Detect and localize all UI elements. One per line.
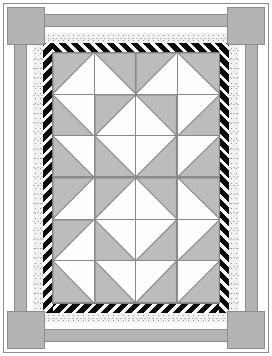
quilt-patch-r4-c1 [53,178,95,220]
quilt-patch-r3-c4 [178,136,220,178]
seam-line-grey-right-inner [245,45,246,311]
quilt-patch-r4-c2 [95,178,137,220]
border-band-stripe-top [44,43,228,53]
inner-pieced-field [53,53,219,303]
corner-square-top-right [227,7,265,45]
quilt-patch-r6-c3 [136,261,178,303]
quilt-patch-r6-c4 [178,261,220,303]
border-band-white-inner-bottom [45,323,227,329]
quilt-patch-r5-c4 [178,220,220,262]
quilt-patch-r2-c2 [95,95,137,137]
quilt-patch-r3-c3 [136,136,178,178]
border-band-stripe-left [43,43,53,313]
border-band-speckled-right [229,36,239,320]
border-band-white-outer-right [258,45,265,311]
quilt-patch-r6-c1 [53,261,95,303]
quilt-patch-r2-c4 [178,95,220,137]
seam-line-grey-bottom-inner [45,329,227,330]
quilt-patch-r5-c3 [136,220,178,262]
quilt-patch-r5-c1 [53,220,95,262]
border-band-white-outer-bottom [45,342,227,349]
quilt-patch-r1-c3 [136,53,178,95]
quilt-patch-r1-c2 [95,53,137,95]
border-band-speckled-top [36,33,236,43]
quilt-diagram [0,0,272,356]
border-band-stripe-right [219,43,229,313]
quilt-patch-r5-c2 [95,220,137,262]
corner-square-top-left [7,7,45,45]
seam-line-grey-left-outer [14,45,15,311]
quilt-patch-r4-c3 [136,178,178,220]
corner-square-bottom-right [227,311,265,349]
border-band-speckled-left [33,36,43,320]
border-band-stripe-bottom [44,303,228,313]
seam-line-grey-right-outer [257,45,258,311]
seam-line-grey-top-outer [45,14,227,15]
quilt-patch-r4-c4 [178,178,220,220]
corner-square-bottom-left [7,311,45,349]
quilt-patch-r2-c1 [53,95,95,137]
quilt-patch-r6-c2 [95,261,137,303]
quilt-patch-r3-c1 [53,136,95,178]
quilt-patch-r3-c2 [95,136,137,178]
border-band-speckled-bottom [36,313,236,323]
border-band-white-outer-left [7,45,14,311]
seam-line-grey-bottom-outer [45,341,227,342]
quilt-patch-r2-c3 [136,95,178,137]
quilt-patch-r1-c1 [53,53,95,95]
border-band-white-inner-right [239,45,245,311]
border-band-white-outer-top [45,7,227,14]
quilt-patch-r1-c4 [178,53,220,95]
